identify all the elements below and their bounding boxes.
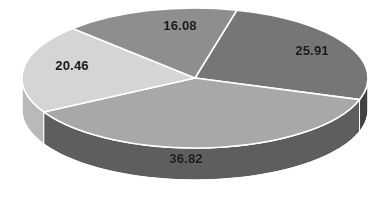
pie-chart-figure: 25.9136.8220.4616.08: [0, 0, 388, 224]
pie-top-faces: [22, 8, 368, 148]
pie-chart-canvas: [0, 0, 388, 224]
